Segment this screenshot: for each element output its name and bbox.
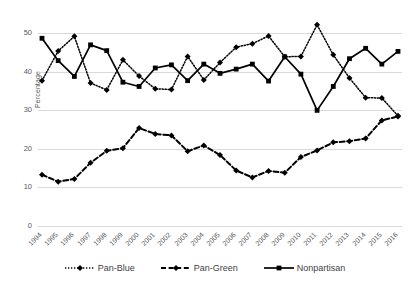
data-point [169,62,174,67]
data-point [39,172,45,178]
data-point [299,72,304,77]
x-tick-label-2001: 2001 [140,231,156,247]
x-tick-label-2000: 2000 [124,231,140,247]
legend-swatch-pan-green [161,263,191,273]
x-tick-label-2010: 2010 [286,231,302,247]
legend-item-nonpartisan[interactable]: Nonpartisan [264,263,346,273]
legend-item-pan-green[interactable]: Pan-Green [161,263,238,273]
data-point [346,138,352,144]
data-point [218,71,223,76]
y-tick-label-10: 10 [10,182,32,191]
data-point [266,33,272,39]
x-tick-label-2006: 2006 [221,231,237,247]
legend-swatch-pan-blue [65,263,95,273]
data-point [249,41,255,47]
x-axis-tick-labels: 1994199519961997199819992000200120022003… [38,226,402,268]
series-pan-green [39,114,401,185]
data-point [72,74,77,79]
data-point [152,86,158,92]
x-tick-label-2005: 2005 [205,231,221,247]
legend-swatch-nonpartisan [264,263,294,273]
data-point [121,80,126,85]
x-tick-label-2013: 2013 [335,231,351,247]
x-tick-label-1996: 1996 [59,231,75,247]
y-tick-label-0: 0 [10,221,32,230]
data-point [56,58,61,63]
data-point [40,36,45,41]
legend-label-pan-green: Pan-Green [194,263,238,273]
data-point [88,80,94,86]
data-point [266,79,271,84]
x-tick-label-1998: 1998 [92,231,108,247]
x-tick-label-2003: 2003 [173,231,189,247]
data-point [234,67,239,72]
data-point [314,22,320,28]
data-point [315,108,320,113]
x-tick-label-2007: 2007 [237,231,253,247]
x-tick-label-2011: 2011 [302,231,318,247]
data-point [331,84,336,89]
x-tick-label-2012: 2012 [318,231,334,247]
data-point [39,78,45,84]
data-point [104,87,110,93]
data-point [330,139,336,145]
series-layer [38,14,402,226]
data-point [153,66,158,71]
data-point [71,176,77,182]
series-line-pan-green [42,117,398,182]
x-tick-label-2004: 2004 [189,231,205,247]
legend-item-pan-blue[interactable]: Pan-Blue [65,263,135,273]
data-point [395,114,401,120]
y-tick-label-40: 40 [10,67,32,76]
data-point [104,48,109,53]
data-point [347,56,352,61]
series-pan-blue [39,22,401,119]
data-point [363,46,368,51]
data-point [250,62,255,67]
x-tick-label-2002: 2002 [157,231,173,247]
x-tick-label-1995: 1995 [43,231,59,247]
data-point [249,174,255,180]
data-point [298,53,304,59]
data-point [185,78,190,83]
series-line-pan-blue [42,25,398,116]
x-tick-label-2008: 2008 [254,231,270,247]
data-point [137,84,142,89]
data-point [55,179,61,185]
data-point [201,62,206,67]
data-point [152,131,158,137]
data-point [379,62,384,67]
chart-legend: Pan-BluePan-GreenNonpartisan [0,263,410,273]
y-tick-label-30: 30 [10,105,32,114]
y-tick-label-20: 20 [10,144,32,153]
x-tick-label-2009: 2009 [270,231,286,247]
data-point [168,87,174,93]
x-tick-label-2014: 2014 [351,231,367,247]
plot-area [38,14,402,226]
legend-label-nonpartisan: Nonpartisan [297,263,346,273]
chart-container: Percentage 01020304050 19941995199619971… [0,0,410,288]
data-point [88,42,93,47]
x-tick-label-2016: 2016 [383,231,399,247]
x-tick-label-1997: 1997 [76,231,92,247]
x-tick-label-2015: 2015 [367,231,383,247]
x-tick-label-1999: 1999 [108,231,124,247]
data-point [282,54,287,59]
legend-label-pan-blue: Pan-Blue [98,263,135,273]
x-tick-label-1994: 1994 [27,231,43,247]
data-point [396,49,401,54]
y-tick-label-50: 50 [10,28,32,37]
data-point [363,136,369,142]
data-point [266,168,272,174]
